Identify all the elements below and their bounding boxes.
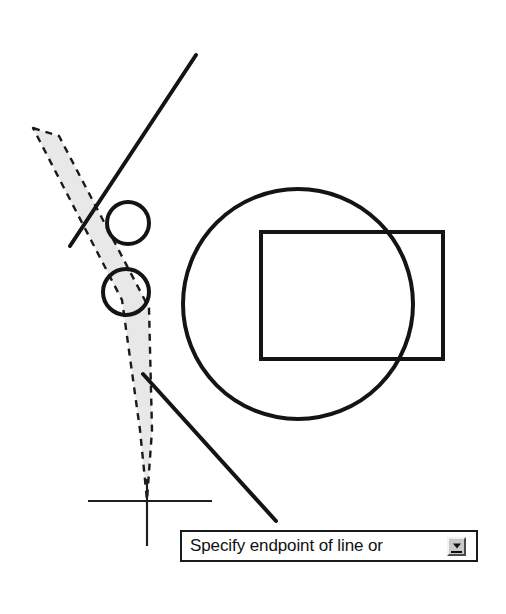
big-circle-shape[interactable] xyxy=(183,189,413,419)
command-prompt-label: Specify endpoint of line or xyxy=(190,536,447,556)
rectangle-shape[interactable] xyxy=(261,232,443,359)
small-circle-upper-shape[interactable] xyxy=(107,202,149,244)
lower-diagonal-line-shape[interactable] xyxy=(143,374,276,521)
cad-drawing-area xyxy=(0,0,506,614)
upper-diagonal-line-shape[interactable] xyxy=(70,55,196,246)
dropdown-arrow-glyph xyxy=(453,544,461,549)
command-prompt-tooltip[interactable]: Specify endpoint of line or xyxy=(180,530,478,562)
dropdown-arrow-bar xyxy=(451,551,462,553)
drawing-canvas[interactable]: Specify endpoint of line or xyxy=(0,0,506,614)
dropdown-arrow-icon[interactable] xyxy=(447,537,466,556)
